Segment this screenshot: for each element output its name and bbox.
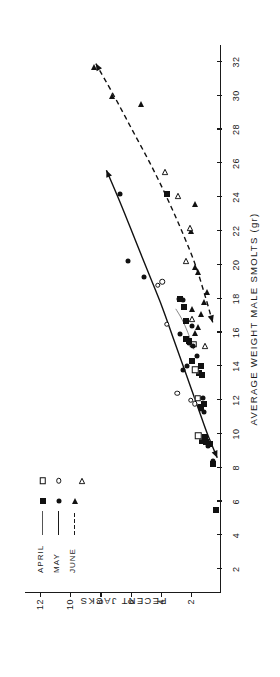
data-point-june	[192, 201, 198, 207]
curve-arrowhead	[208, 314, 214, 322]
x-tick	[217, 60, 222, 61]
data-point-june	[179, 224, 186, 231]
x-tick-label: 2	[231, 566, 241, 572]
legend-marker-filled	[72, 498, 78, 504]
data-point-may	[176, 296, 181, 301]
curve-arrowhead	[212, 450, 218, 458]
data-point-june	[201, 299, 207, 305]
data-point-april	[195, 432, 202, 439]
x-tick-label: 18	[231, 293, 241, 304]
data-point-june	[109, 92, 115, 98]
legend-marker-open	[39, 477, 46, 484]
x-tick-label: 10	[231, 428, 241, 439]
x-tick-label: 8	[231, 465, 241, 471]
x-tick	[217, 331, 222, 332]
data-point-april	[213, 507, 219, 513]
x-tick-label: 28	[231, 124, 241, 135]
x-axis-title: AVERAGE WEIGHT MALE SMOLTS (gr)	[248, 212, 259, 425]
data-point-june	[91, 64, 97, 70]
data-point-april	[181, 304, 187, 310]
figure-page: 2468101214161820222426283032 24681012 AV…	[0, 0, 280, 677]
legend-marker-filled	[40, 498, 46, 504]
x-tick-label: 12	[231, 394, 241, 405]
data-point-june	[181, 315, 188, 322]
x-tick-label: 16	[231, 327, 241, 338]
x-tick-label: 24	[231, 191, 241, 202]
data-point-june	[195, 324, 201, 330]
legend: APRILMAYJUNE	[35, 457, 97, 573]
x-tick	[217, 196, 222, 197]
data-point-may	[175, 390, 181, 396]
x-tick	[217, 534, 222, 535]
legend-label: MAY	[52, 539, 61, 573]
x-tick	[217, 263, 222, 264]
data-point-may	[186, 340, 191, 345]
legend-label: JUNE	[68, 539, 77, 573]
data-point-june	[154, 168, 161, 175]
x-tick	[217, 297, 222, 298]
data-point-june	[175, 258, 182, 265]
data-point-may	[117, 191, 122, 196]
x-tick	[217, 432, 222, 433]
x-tick	[217, 399, 222, 400]
x-tick-label: 32	[231, 56, 241, 67]
y-tick-label: 10	[65, 599, 75, 612]
x-tick	[217, 365, 222, 366]
data-point-june	[198, 310, 204, 316]
data-point-june	[194, 342, 201, 349]
data-point-april	[198, 363, 204, 369]
x-tick	[217, 229, 222, 230]
data-point-may	[206, 443, 211, 448]
data-point-june	[168, 192, 175, 199]
data-point-june	[204, 288, 210, 294]
chart-stage: 2468101214161820222426283032 24681012 AV…	[11, 19, 269, 659]
legend-label: APRIL	[36, 539, 45, 573]
y-axis-title: PECENT JACKS	[79, 595, 166, 606]
legend-marker-open	[71, 477, 78, 484]
y-tick-label: 2	[186, 599, 196, 612]
curve-arrowhead	[106, 170, 112, 178]
x-tick	[217, 466, 222, 467]
data-point-june	[189, 305, 195, 311]
x-tick-label: 20	[231, 259, 241, 270]
x-tick-label: 4	[231, 532, 241, 538]
legend-row-june: JUNE	[67, 457, 82, 573]
data-point-may	[178, 331, 183, 336]
x-axis-line	[220, 45, 221, 593]
data-point-june	[138, 101, 144, 107]
legend-marker-open	[56, 478, 62, 484]
y-tick	[70, 592, 71, 597]
data-point-may	[142, 274, 147, 279]
x-tick	[217, 94, 222, 95]
x-tick-label: 14	[231, 360, 241, 371]
x-tick-label: 22	[231, 225, 241, 236]
data-point-may	[189, 323, 194, 328]
y-tick-label: 12	[35, 599, 45, 612]
x-tick	[217, 500, 222, 501]
x-tick	[217, 128, 222, 129]
data-point-june	[192, 263, 198, 269]
data-point-may	[159, 279, 165, 285]
data-point-may	[211, 458, 216, 463]
data-point-may	[185, 363, 190, 368]
x-tick-label: 30	[231, 90, 241, 101]
y-tick	[191, 592, 192, 597]
y-tick	[40, 592, 41, 597]
data-point-may	[198, 406, 203, 411]
data-point-april	[202, 434, 208, 440]
x-tick	[217, 162, 222, 163]
legend-marker-filled	[56, 498, 61, 503]
data-point-may	[194, 353, 199, 358]
data-point-may	[164, 321, 170, 327]
legend-row-april: APRIL	[35, 457, 50, 573]
x-tick-label: 26	[231, 157, 241, 168]
x-tick-label: 6	[231, 498, 241, 504]
legend-row-may: MAY	[51, 457, 66, 573]
data-point-may	[188, 397, 194, 403]
data-point-may	[200, 396, 205, 401]
data-point-may	[125, 259, 130, 264]
x-tick	[217, 568, 222, 569]
